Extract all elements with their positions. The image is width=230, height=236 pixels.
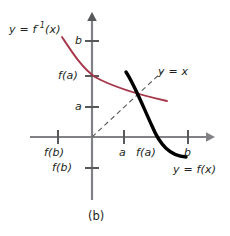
- x-tick-label-b: b: [184, 147, 191, 158]
- figure-caption: (b): [88, 211, 104, 223]
- x-tick-label-a: a: [119, 147, 126, 158]
- figure-container: y = f-1(x) y = x y = f(x) b f(a) a f(b) …: [0, 0, 230, 236]
- y-tick-label-fa: f(a): [58, 70, 78, 81]
- inverse-function-label: y = f-1(x): [9, 22, 61, 35]
- y-tick-label-fb: f(b): [52, 162, 72, 173]
- y-tick-label-a: a: [75, 101, 82, 112]
- function-curve-label: y = f(x): [173, 164, 216, 175]
- function-curve: [126, 72, 186, 157]
- x-axis: [30, 130, 215, 144]
- y-tick-label-b: b: [75, 35, 82, 46]
- y-axis: [85, 12, 99, 200]
- x-tick-label-fa: f(a): [136, 147, 156, 158]
- x-tick-label-fb: f(b): [44, 147, 64, 158]
- identity-line-label: y = x: [158, 66, 188, 77]
